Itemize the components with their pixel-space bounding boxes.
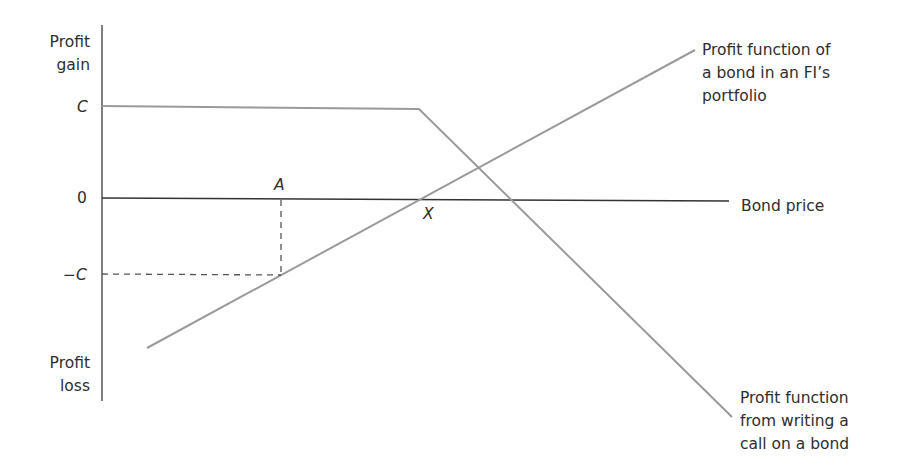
guide-horizontal-neg-c [102, 274, 281, 275]
point-a-label: A [274, 174, 285, 197]
label-line: portfolio [702, 85, 831, 108]
label-line: call on a bond [740, 433, 849, 456]
label-line: gain [50, 54, 90, 77]
tick-zero: 0 [77, 187, 87, 210]
y-axis-bottom-label: Profit loss [50, 352, 90, 398]
bond-series-label: Profit function of a bond in an FI’s por… [702, 39, 831, 108]
point-x-label: X [423, 203, 434, 226]
x-axis [102, 198, 729, 201]
call-profit-line [102, 106, 732, 417]
tick-c: C [77, 96, 88, 119]
label-line: loss [50, 375, 90, 398]
call-series-label: Profit function from writing a call on a… [740, 387, 849, 456]
label-line: Profit function [740, 387, 849, 410]
label-line: Profit [50, 31, 90, 54]
label-line: Profit [50, 352, 90, 375]
label-line: from writing a [740, 410, 849, 433]
label-line: a bond in an FI’s [702, 62, 831, 85]
label-line: Profit function of [702, 39, 831, 62]
y-axis-top-label: Profit gain [50, 31, 90, 77]
tick-neg-c: −C [63, 264, 87, 287]
x-axis-label: Bond price [741, 195, 824, 218]
